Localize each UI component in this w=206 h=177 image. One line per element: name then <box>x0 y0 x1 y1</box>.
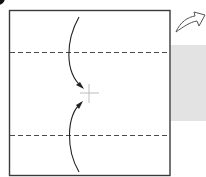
turn-over-arrow-icon <box>176 12 205 32</box>
step-marker-icon <box>0 0 5 5</box>
origami-diagram <box>0 0 206 177</box>
back-side-preview <box>171 45 206 121</box>
